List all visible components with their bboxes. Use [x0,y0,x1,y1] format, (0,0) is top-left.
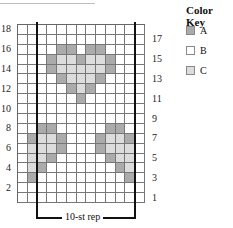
chart-cell [38,114,48,124]
chart-cell [18,84,28,94]
row-number: 8 [6,122,11,133]
chart-cell [57,74,67,84]
chart-cell [38,124,48,134]
chart-cell [77,163,87,173]
chart-cell [67,163,77,173]
row-number: 5 [152,152,157,163]
chart-cell [38,25,48,35]
chart-cell [57,35,67,45]
row-number: 11 [152,93,162,104]
chart-cell [57,65,67,75]
row-number: 4 [6,162,11,173]
chart-cell [106,74,116,84]
chart-cell [135,163,145,173]
chart-cell [67,193,77,203]
chart-cell [106,35,116,45]
chart-cell [67,154,77,164]
chart-cell [106,163,116,173]
chart-cell [67,173,77,183]
chart-cell [135,154,145,164]
chart-cell [18,173,28,183]
chart-cell [106,124,116,134]
chart-cell [18,163,28,173]
row-number: 17 [152,33,162,44]
chart-cell [86,183,96,193]
row-number: 6 [6,142,11,153]
chart-cell [77,74,87,84]
chart-cell [135,124,145,134]
chart-cell [116,154,126,164]
chart-cell [96,193,106,203]
chart-cell [57,154,67,164]
chart-cell [18,55,28,65]
chart-cell [77,45,87,55]
color-key-label: A [200,25,207,36]
chart-cell [86,35,96,45]
chart-cell [47,45,57,55]
row-number: 12 [1,83,11,94]
color-key-item-b: B [186,45,207,56]
swatch-b [186,46,195,55]
chart-cell [18,94,28,104]
row-number: 1 [152,192,157,203]
chart-cell [67,183,77,193]
chart-cell [96,25,106,35]
chart-cell [116,183,126,193]
header-rule [0,3,95,4]
chart-cell [47,163,57,173]
chart-cell [67,104,77,114]
chart-cell [38,173,48,183]
chart-cell [47,65,57,75]
chart-cell [116,35,126,45]
color-key-label: C [200,65,207,76]
chart-cell [77,183,87,193]
chart-cell [38,35,48,45]
chart-cell [57,45,67,55]
chart-cell [18,104,28,114]
repeat-left-line [36,22,38,218]
chart-cell [135,193,145,203]
chart-cell [77,124,87,134]
chart-cell [38,154,48,164]
chart-cell [57,114,67,124]
chart-cell [135,114,145,124]
chart-cell [106,84,116,94]
chart-cell [18,25,28,35]
chart-cell [106,114,116,124]
chart-cell [86,163,96,173]
chart-cell [106,45,116,55]
chart-cell [116,84,126,94]
chart-cell [77,144,87,154]
row-number: 2 [6,182,11,193]
chart-cell [77,25,87,35]
chart-cell [106,55,116,65]
chart-cell [38,55,48,65]
row-number: 13 [152,73,162,84]
chart-cell [38,163,48,173]
chart-cell [135,65,145,75]
chart-cell [86,65,96,75]
chart-cell [135,74,145,84]
chart-cell [57,25,67,35]
chart-cell [67,94,77,104]
chart-cell [96,104,106,114]
chart-cell [57,55,67,65]
chart-cell [67,25,77,35]
chart-cell [67,55,77,65]
chart-cell [86,114,96,124]
chart-cell [67,35,77,45]
chart-cell [116,124,126,134]
chart-cell [96,84,106,94]
chart-cell [47,144,57,154]
chart-cell [116,25,126,35]
chart-cell [47,154,57,164]
chart-cell [77,173,87,183]
chart-cell [106,65,116,75]
chart-cell [47,25,57,35]
chart-cell [47,183,57,193]
chart-cell [18,154,28,164]
chart-cell [18,74,28,84]
chart-cell [116,45,126,55]
chart-cell [96,65,106,75]
chart-cell [116,94,126,104]
